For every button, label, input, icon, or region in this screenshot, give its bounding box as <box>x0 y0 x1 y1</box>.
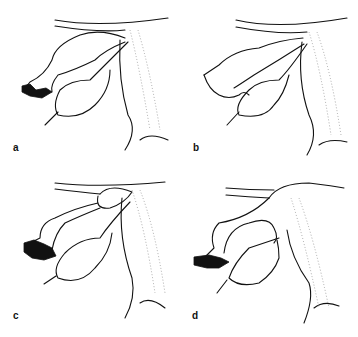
panel-label-a: a <box>13 142 19 153</box>
panel-a: a <box>0 0 179 168</box>
panel-d: d <box>179 168 358 336</box>
ovary-tube-illustration-d <box>179 168 358 336</box>
panel-label-d: d <box>192 310 198 321</box>
panel-b: b <box>179 0 358 168</box>
panel-c: c <box>0 168 179 336</box>
ovary-tube-illustration-b <box>179 0 358 168</box>
panel-label-b: b <box>193 142 199 153</box>
panel-label-c: c <box>13 310 19 321</box>
ovary-tube-illustration-a <box>0 0 179 168</box>
ovary-tube-illustration-c <box>0 168 179 336</box>
